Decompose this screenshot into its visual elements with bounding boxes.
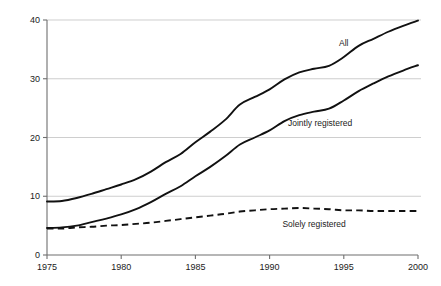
y-tick-label-20: 20 [30, 133, 40, 143]
y-tick-labels: 010203040 [30, 15, 40, 260]
x-tick-label-2000: 2000 [408, 262, 428, 272]
series-line-jointly-registered [47, 65, 418, 228]
x-tick-labels: 197519801985199019952000 [37, 262, 428, 272]
x-tick-label-1995: 1995 [334, 262, 354, 272]
y-tick-label-0: 0 [35, 250, 40, 260]
y-tick-label-10: 10 [30, 191, 40, 201]
series-label-solely-registered: Solely registered [282, 219, 346, 229]
chart-container: 010203040 197519801985199019952000 AllJo… [0, 0, 441, 286]
gridlines [47, 20, 421, 196]
x-tick-label-1975: 1975 [37, 262, 57, 272]
series-label-jointly-registered: Jointly registered [288, 118, 353, 128]
series-line-solely-registered [47, 208, 418, 229]
x-tick-label-1985: 1985 [185, 262, 205, 272]
line-chart: 010203040 197519801985199019952000 AllJo… [0, 0, 441, 286]
y-axis [43, 20, 47, 255]
series-label-all: All [339, 38, 349, 48]
x-tick-label-1990: 1990 [260, 262, 280, 272]
data-series [47, 21, 418, 229]
x-tick-label-1980: 1980 [111, 262, 131, 272]
y-tick-label-30: 30 [30, 74, 40, 84]
y-tick-label-40: 40 [30, 15, 40, 25]
x-axis [47, 255, 418, 259]
series-annotations: AllJointly registeredSolely registered [282, 38, 352, 228]
series-line-all [47, 21, 418, 202]
